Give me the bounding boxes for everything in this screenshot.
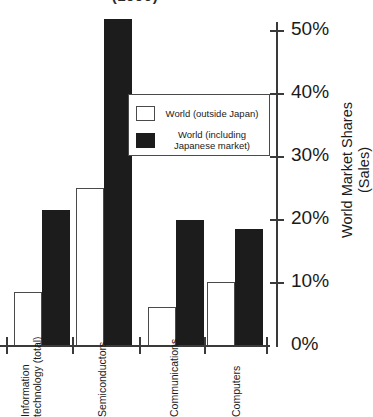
y-axis-title-line2: (Sales) [356,65,373,275]
bar-semiconductors-world-outside-japan [76,188,104,345]
x-axis-label-communications-text: Communications [168,339,180,417]
legend-swatch-dark-square-icon [136,133,155,148]
y-axis-label-30: 30% [291,144,329,166]
y-axis-title-line1: World Market Shares [339,102,355,238]
x-axis-label-communications: Communications [169,339,181,417]
bar-information-technology-world-including-japan [42,210,70,346]
y-axis-line [276,22,278,347]
y-axis-tick-20 [270,219,284,221]
y-axis-label-10: 10% [291,270,329,292]
legend-label-world-including-japan-line2: market) [218,140,250,151]
y-axis-tick-50 [270,30,284,32]
legend-entry-world-outside-japan: World (outside Japan) [129,101,271,125]
x-axis-label-computers-text: Computers [230,366,242,417]
x-axis-tick-3 [204,337,206,354]
bar-chart-figure: (1990) Information technology (total) Se… [0,0,373,417]
bar-computers-world-including-japan [235,229,263,346]
legend: World (outside Japan) World (including J… [128,94,270,156]
x-axis-tick-1 [72,337,74,354]
bar-semiconductors-world-including-japan [104,19,132,346]
x-axis-label-semiconductors: Semiconductors [97,342,109,417]
x-axis-label-information-technology-line2: technology (total) [32,336,44,417]
bar-computers-world-outside-japan [207,282,235,345]
x-axis-label-information-technology-line1: Information [19,364,31,417]
legend-swatch-light-square-icon [136,106,155,121]
y-axis-tick-30 [270,156,284,158]
x-axis-label-computers: Computers [231,366,243,417]
y-axis-tick-40 [270,93,284,95]
legend-label-world-outside-japan: World (outside Japan) [155,108,271,119]
plot-area: Information technology (total) Semicondu… [0,0,270,417]
x-axis-label-information-technology: Information technology (total) [20,336,43,417]
y-axis-title: World Market Shares (Sales) [339,65,373,275]
y-axis-label-0: 0% [291,333,318,355]
x-axis-tick-0 [6,337,8,354]
x-axis-tick-2 [139,337,141,354]
legend-entry-world-including-japan: World (including Japanese market) [129,127,271,153]
y-axis-label-40: 40% [291,81,329,103]
y-axis-label-50: 50% [291,18,329,40]
x-axis-tick-4 [266,337,268,354]
y-axis-label-20: 20% [291,207,329,229]
x-axis-label-semiconductors-text: Semiconductors [96,342,108,417]
bar-communications-world-including-japan [176,220,204,346]
legend-label-world-including-japan: World (including Japanese market) [155,129,271,151]
y-axis-tick-10 [270,282,284,284]
